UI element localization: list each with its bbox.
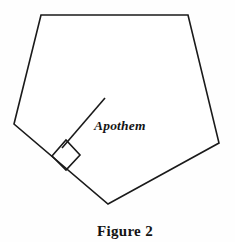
figure-caption: Figure 2 bbox=[97, 223, 153, 239]
pentagon-apothem-diagram: Apothem Figure 2 bbox=[0, 0, 235, 242]
apothem-label: Apothem bbox=[93, 118, 146, 133]
pentagon-shape bbox=[14, 15, 219, 204]
figure-container: Apothem Figure 2 bbox=[0, 0, 235, 242]
